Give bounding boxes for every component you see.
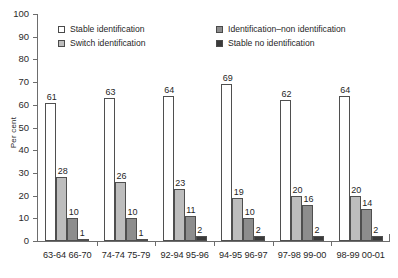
y-axis-tick-label: 50 [7,123,29,133]
y-axis-tick-label: 20 [7,191,29,201]
y-axis-tick-label: 100 [7,9,29,19]
bar-value-label: 19 [234,188,244,197]
bar-value-label: 61 [47,93,57,102]
bar [115,182,126,241]
y-axis-tick-label: 90 [7,32,29,42]
bar-value-label: 2 [373,226,378,235]
y-axis-tick-mark [33,37,37,38]
bar-value-label: 10 [245,208,255,217]
bar-group: 6919102 [214,14,273,241]
y-axis-tick-label: 40 [7,145,29,155]
bar-value-label: 20 [351,186,361,195]
y-axis-tick-label: 60 [7,100,29,110]
x-axis-group-tick [214,242,215,246]
bar [372,236,383,241]
bar-value-label: 2 [314,226,319,235]
y-axis-tick-label: 30 [7,168,29,178]
bar-group: 6220162 [273,14,332,241]
x-axis-group-tick [97,242,98,246]
bar [104,98,115,241]
bar [174,189,185,241]
bar-value-label: 20 [292,186,302,195]
bar [361,209,372,241]
bar-value-label: 16 [303,195,313,204]
x-axis-tick-label: 74-74 75-79 [97,250,156,260]
bar [291,196,302,241]
y-axis-tick-label: 80 [7,54,29,64]
bar-value-label: 62 [281,90,291,99]
y-axis-tick-label: 10 [7,213,29,223]
y-axis-tick-label: 70 [7,77,29,87]
bar-value-label: 64 [340,86,350,95]
bar-group: 6128101 [38,14,97,241]
bar [313,236,324,241]
x-axis-tick-label: 92-94 95-96 [155,250,214,260]
bar-value-label: 28 [58,167,68,176]
bar [56,177,67,241]
y-axis-tick-mark [33,218,37,219]
y-axis-tick-mark [33,150,37,151]
bar-value-label: 2 [197,226,202,235]
bar [163,96,174,241]
y-axis-tick-mark [33,105,37,106]
bar [126,218,137,241]
y-axis-tick-mark [33,14,37,15]
bar [67,218,78,241]
x-axis-group-tick [273,242,274,246]
bar [339,96,350,241]
x-axis-tick-label: 63-64 66-70 [38,250,97,260]
x-axis-tick-label: 97-98 99-00 [273,250,332,260]
bar-group: 6326101 [97,14,156,241]
y-axis-tick-mark [33,82,37,83]
bar [185,216,196,241]
y-axis-tick-mark [33,241,37,242]
x-axis-group-tick [155,242,156,246]
bar [232,198,243,241]
bar [254,236,265,241]
plot-area: 6128101632610164231126919102622016264201… [38,14,390,241]
bar-value-label: 10 [127,208,137,217]
bar-chart: Per cent 1009080706050403020100 Stable i… [0,0,398,278]
bar [302,205,313,241]
bar [350,196,361,241]
bar-value-label: 1 [138,229,143,238]
bar-group: 6420142 [331,14,390,241]
bar-value-label: 1 [80,229,85,238]
bar-value-label: 10 [69,208,79,217]
bar [78,239,89,241]
y-axis-tick-mark [33,59,37,60]
x-axis-tick-label: 94-95 96-97 [214,250,273,260]
bar [243,218,254,241]
bar [280,100,291,241]
bar [137,239,148,241]
bar-value-label: 2 [256,226,261,235]
bar [45,103,56,241]
bar-value-label: 11 [186,206,195,215]
bar-value-label: 63 [105,88,115,97]
y-axis-tick-mark [33,128,37,129]
bar [196,236,207,241]
bar-value-label: 64 [164,86,174,95]
x-axis-tick-label: 98-99 00-01 [331,250,390,260]
y-axis-tick-label: 0 [7,236,29,246]
bar-group: 6423112 [155,14,214,241]
bar-value-label: 23 [175,179,185,188]
bar [221,84,232,241]
y-axis-tick-mark [33,196,37,197]
bar-value-label: 14 [362,199,372,208]
bar-value-label: 69 [223,74,233,83]
x-axis-group-tick [331,242,332,246]
y-axis-tick-mark [33,173,37,174]
bar-value-label: 26 [116,172,126,181]
